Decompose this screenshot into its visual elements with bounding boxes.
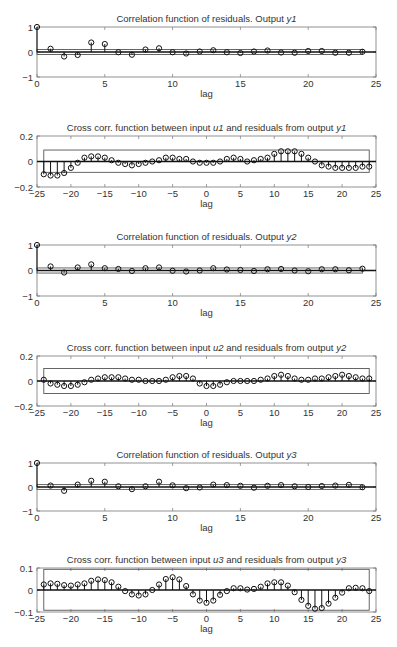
x-axis-label: lag bbox=[200, 623, 213, 634]
x-tick-label: 25 bbox=[371, 188, 382, 199]
x-tick-label: 15 bbox=[303, 407, 314, 418]
y-tick-label: −0.2 bbox=[14, 182, 33, 193]
x-tick-label: 5 bbox=[238, 188, 243, 199]
x-tick-label: −5 bbox=[167, 407, 178, 418]
subplot-title: Cross corr. function between input u3 an… bbox=[67, 554, 347, 565]
x-tick-label: 15 bbox=[235, 297, 246, 308]
subplot-2: Cross corr. function between input u1 an… bbox=[14, 122, 381, 209]
subplot-title: Cross corr. function between input u2 an… bbox=[67, 342, 347, 353]
x-tick-label: 0 bbox=[34, 297, 39, 308]
x-axis-label: lag bbox=[200, 307, 213, 318]
y-tick-label: 0 bbox=[28, 376, 33, 387]
x-tick-label: 10 bbox=[269, 613, 280, 624]
residual-analysis-figure: Correlation function of residuals. Outpu… bbox=[0, 0, 397, 647]
x-tick-label: 20 bbox=[337, 407, 348, 418]
y-tick-label: 0.2 bbox=[20, 351, 33, 362]
subplot-6: Cross corr. function between input u3 an… bbox=[14, 554, 381, 634]
x-axis-label: lag bbox=[200, 522, 213, 533]
x-tick-label: −5 bbox=[167, 188, 178, 199]
x-tick-label: −15 bbox=[97, 188, 113, 199]
x-tick-label: 5 bbox=[102, 512, 107, 523]
subplot-1: Correlation function of residuals. Outpu… bbox=[22, 13, 381, 99]
x-tick-label: 5 bbox=[102, 297, 107, 308]
subplot-title: Correlation function of residuals. Outpu… bbox=[116, 231, 297, 242]
y-tick-label: 1 bbox=[28, 22, 33, 33]
x-tick-label: 0 bbox=[34, 78, 39, 89]
stem-plots-canvas: Correlation function of residuals. Outpu… bbox=[0, 0, 397, 647]
y-tick-label: 0.1 bbox=[20, 563, 33, 574]
subplot-title: Correlation function of residuals. Outpu… bbox=[116, 13, 296, 24]
subplot-4: Cross corr. function between input u2 an… bbox=[14, 342, 381, 428]
x-tick-label: 10 bbox=[269, 407, 280, 418]
y-tick-label: −0.1 bbox=[14, 607, 33, 618]
y-tick-label: 0 bbox=[28, 585, 33, 596]
x-tick-label: 15 bbox=[235, 512, 246, 523]
x-tick-label: 10 bbox=[167, 78, 178, 89]
x-axis-label: lag bbox=[200, 198, 213, 209]
subplot-title: Correlation function of residuals. Outpu… bbox=[116, 449, 297, 460]
y-tick-label: 0 bbox=[28, 482, 33, 493]
y-tick-label: −0.2 bbox=[14, 401, 33, 412]
x-tick-label: −15 bbox=[97, 407, 113, 418]
x-tick-label: 20 bbox=[303, 78, 314, 89]
y-tick-label: 0 bbox=[28, 47, 33, 58]
y-tick-label: −1 bbox=[22, 506, 33, 517]
x-tick-label: −20 bbox=[63, 613, 79, 624]
x-axis-label: lag bbox=[200, 88, 213, 99]
x-tick-label: 5 bbox=[102, 78, 107, 89]
x-tick-label: 15 bbox=[303, 613, 314, 624]
subplot-3: Correlation function of residuals. Outpu… bbox=[22, 231, 381, 318]
x-tick-label: 25 bbox=[371, 297, 382, 308]
x-tick-label: 0 bbox=[34, 512, 39, 523]
y-tick-label: 1 bbox=[28, 240, 33, 251]
subplot-5: Correlation function of residuals. Outpu… bbox=[22, 449, 381, 533]
x-tick-label: 25 bbox=[371, 512, 382, 523]
x-tick-label: −20 bbox=[63, 407, 79, 418]
x-tick-label: −10 bbox=[131, 188, 147, 199]
x-tick-label: 20 bbox=[303, 512, 314, 523]
x-tick-label: 25 bbox=[371, 613, 382, 624]
x-tick-label: −15 bbox=[97, 613, 113, 624]
x-tick-label: −10 bbox=[131, 613, 147, 624]
y-tick-label: 0 bbox=[28, 265, 33, 276]
x-tick-label: 20 bbox=[337, 613, 348, 624]
y-tick-label: 0 bbox=[28, 156, 33, 167]
x-tick-label: −10 bbox=[131, 407, 147, 418]
x-tick-label: 20 bbox=[303, 297, 314, 308]
x-tick-label: 15 bbox=[235, 78, 246, 89]
x-tick-label: 25 bbox=[371, 78, 382, 89]
x-tick-label: 10 bbox=[269, 188, 280, 199]
x-tick-label: 10 bbox=[167, 297, 178, 308]
x-tick-label: 5 bbox=[238, 407, 243, 418]
y-tick-label: 0.2 bbox=[20, 131, 33, 142]
subplot-title: Cross corr. function between input u1 an… bbox=[67, 122, 346, 133]
x-tick-label: −20 bbox=[63, 188, 79, 199]
y-tick-label: 1 bbox=[28, 458, 33, 469]
x-tick-label: 5 bbox=[238, 613, 243, 624]
x-tick-label: 15 bbox=[303, 188, 314, 199]
x-tick-label: −5 bbox=[167, 613, 178, 624]
x-tick-label: 25 bbox=[371, 407, 382, 418]
x-tick-label: 10 bbox=[167, 512, 178, 523]
x-tick-label: 20 bbox=[337, 188, 348, 199]
y-tick-label: −1 bbox=[22, 291, 33, 302]
y-tick-label: −1 bbox=[22, 72, 33, 83]
x-axis-label: lag bbox=[200, 417, 213, 428]
